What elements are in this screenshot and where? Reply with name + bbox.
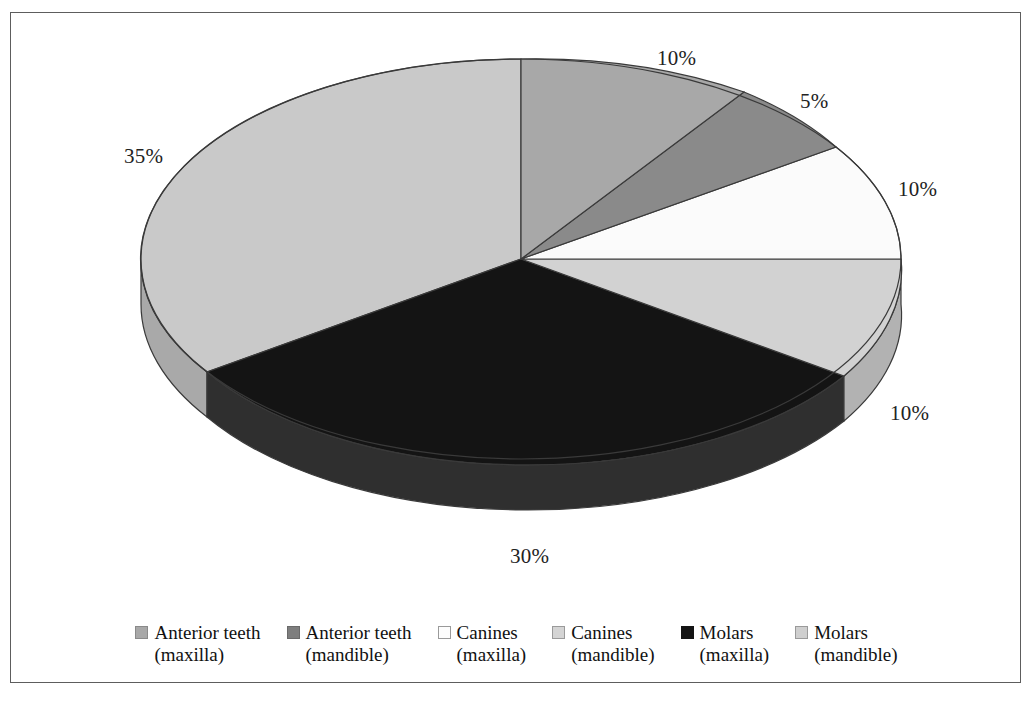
pie-top-face	[141, 59, 902, 465]
legend-label-line1: Molars	[814, 622, 868, 643]
chart-frame: 10% 5% 10% 10% 30% 35% Anterior teeth (m…	[10, 12, 1021, 683]
legend-item-canines-mandible[interactable]: Canines (mandible)	[552, 622, 654, 666]
legend-label-line2: (mandible)	[571, 644, 654, 666]
legend-label-line2: (mandible)	[814, 644, 897, 666]
legend-item-canines-maxilla[interactable]: Canines (maxilla)	[438, 622, 527, 666]
legend-label-line1: Canines	[571, 622, 632, 643]
legend-label-line1: Anterior teeth	[306, 622, 412, 643]
legend-label-line2: (maxilla)	[457, 644, 527, 666]
legend-swatch-anterior-teeth-mandible	[287, 626, 300, 639]
legend-label-anterior-teeth-mandible: Anterior teeth (mandible)	[306, 622, 412, 666]
legend-label-molars-mandible: Molars (mandible)	[814, 622, 897, 666]
legend-label-line1: Canines	[457, 622, 518, 643]
pct-label-canines-maxilla: 10%	[898, 177, 937, 202]
pct-label-anterior-teeth-mandible: 5%	[800, 89, 828, 114]
legend-label-line2: (maxilla)	[154, 644, 260, 666]
legend-item-molars-maxilla[interactable]: Molars (maxilla)	[681, 622, 770, 666]
legend-swatch-canines-mandible	[552, 626, 565, 639]
legend-label-canines-mandible: Canines (mandible)	[571, 622, 654, 666]
legend-label-anterior-teeth-maxilla: Anterior teeth (maxilla)	[154, 622, 260, 666]
legend-label-line1: Molars	[700, 622, 754, 643]
legend-item-molars-mandible[interactable]: Molars (mandible)	[795, 622, 897, 666]
chart-legend: Anterior teeth (maxilla) Anterior teeth …	[11, 622, 1022, 666]
legend-item-anterior-teeth-maxilla[interactable]: Anterior teeth (maxilla)	[135, 622, 260, 666]
pie-chart-svg	[11, 13, 1022, 613]
legend-label-canines-maxilla: Canines (maxilla)	[457, 622, 527, 666]
legend-swatch-canines-maxilla	[438, 626, 451, 639]
pct-label-molars-mandible: 35%	[124, 144, 163, 169]
legend-swatch-anterior-teeth-maxilla	[135, 626, 148, 639]
pct-label-anterior-teeth-maxilla: 10%	[657, 46, 696, 71]
legend-label-line2: (maxilla)	[700, 644, 770, 666]
legend-label-line2: (mandible)	[306, 644, 412, 666]
legend-label-molars-maxilla: Molars (maxilla)	[700, 622, 770, 666]
legend-swatch-molars-mandible	[795, 626, 808, 639]
pct-label-molars-maxilla: 30%	[510, 544, 549, 569]
legend-swatch-molars-maxilla	[681, 626, 694, 639]
legend-item-anterior-teeth-mandible[interactable]: Anterior teeth (mandible)	[287, 622, 412, 666]
pct-label-canines-mandible: 10%	[890, 401, 929, 426]
chart-figure: 10% 5% 10% 10% 30% 35% Anterior teeth (m…	[0, 0, 1033, 703]
pie-chart-area: 10% 5% 10% 10% 30% 35%	[11, 13, 1022, 613]
legend-label-line1: Anterior teeth	[154, 622, 260, 643]
